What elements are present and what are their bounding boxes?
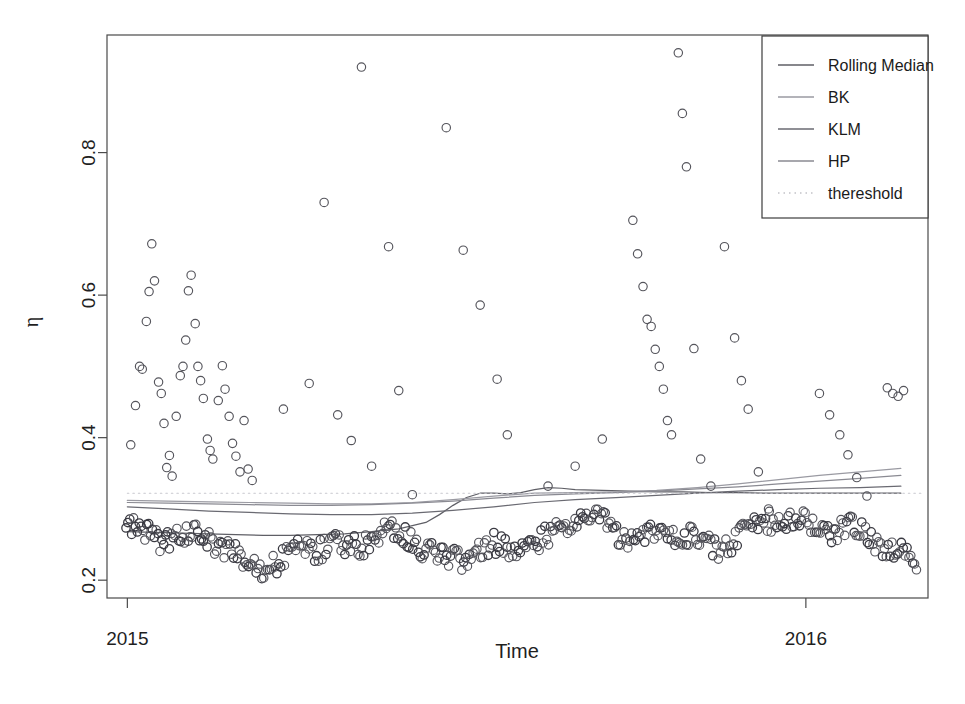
chart-legend[interactable]: Rolling MedianBKKLMHPthereshold <box>762 36 934 218</box>
y-tick-label-0.2: 0.2 <box>79 567 100 593</box>
legend-label: Rolling Median <box>828 57 934 74</box>
x-tick-label-2015: 2015 <box>106 628 148 649</box>
legend-label: BK <box>828 89 850 106</box>
x-axis-title: Time <box>495 640 539 662</box>
legend-label: KLM <box>828 121 861 138</box>
y-axis-title: η <box>20 317 43 327</box>
y-tick-label-0.4: 0.4 <box>79 424 100 451</box>
x-tick-label-2016: 2016 <box>785 628 827 649</box>
legend-label: HP <box>828 153 850 170</box>
y-tick-label-0.8: 0.8 <box>79 139 100 165</box>
y-tick-label-0.6: 0.6 <box>79 282 100 308</box>
legend-label: thereshold <box>828 185 903 202</box>
eta-time-scatter-chart: 0.20.40.60.8 20152016 η Time Rolling Med… <box>0 0 965 704</box>
chart-figure: 0.20.40.60.8 20152016 η Time Rolling Med… <box>0 0 965 704</box>
